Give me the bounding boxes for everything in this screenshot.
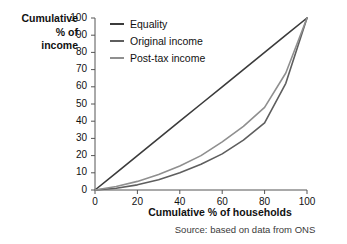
chart-legend: Equality Original income Post-tax income bbox=[110, 16, 205, 67]
legend-label-post-tax-income: Post-tax income bbox=[130, 52, 205, 64]
legend-swatch-original-income bbox=[110, 40, 124, 42]
legend-item-equality: Equality bbox=[110, 16, 205, 32]
source-note: Source: based on data from ONS bbox=[147, 224, 343, 235]
legend-label-original-income: Original income bbox=[130, 35, 203, 47]
legend-label-equality: Equality bbox=[130, 18, 167, 30]
legend-swatch-equality bbox=[110, 23, 124, 25]
legend-item-original-income: Original income bbox=[110, 33, 205, 49]
legend-item-post-tax-income: Post-tax income bbox=[110, 50, 205, 66]
lorenz-curve-chart: Cumulative % of income 01020304050607080… bbox=[0, 0, 347, 244]
x-axis-title: Cumulative % of households bbox=[120, 206, 320, 218]
legend-swatch-post-tax-income bbox=[110, 57, 124, 59]
